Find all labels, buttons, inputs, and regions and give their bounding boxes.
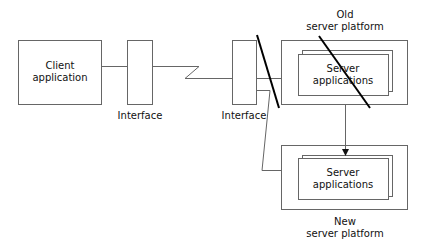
client-line1: Client (18, 60, 102, 72)
old-server-platform-title: Old server platform (290, 9, 400, 33)
new-server-platform-title: New server platform (290, 216, 400, 240)
new-apps-line1: Server (298, 167, 388, 179)
new-apps-line2: applications (298, 179, 388, 191)
old-apps-line1: Server (298, 63, 388, 75)
interface-right-box (233, 41, 257, 105)
new-server-apps-label: Server applications (298, 167, 388, 191)
old-apps-line2: applications (298, 75, 388, 87)
interface-left-label: Interface (110, 110, 170, 122)
client-application-label: Client application (18, 60, 102, 84)
interface-right-label: Interface (214, 110, 274, 122)
diagram-canvas (0, 0, 425, 251)
new-title-line1: New (290, 216, 400, 228)
old-title-line2: server platform (290, 21, 400, 33)
client-line2: application (18, 72, 102, 84)
old-title-line1: Old (290, 9, 400, 21)
new-title-line2: server platform (290, 228, 400, 240)
interface-left-box (128, 41, 153, 105)
strike-interface-line (257, 35, 279, 108)
old-server-apps-label: Server applications (298, 63, 388, 87)
network-link-zigzag (152, 67, 232, 79)
arrow-head-icon (342, 149, 349, 156)
